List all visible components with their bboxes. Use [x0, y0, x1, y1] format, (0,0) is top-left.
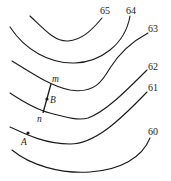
point-label-B: B: [50, 95, 56, 105]
contour-label-63: 63: [148, 23, 158, 34]
contour-line-65: [30, 16, 102, 41]
contour-line-64: [10, 16, 130, 63]
contour-label-65: 65: [100, 5, 110, 16]
contour-line-63: [12, 33, 148, 91]
contour-map: 656463626160 mBnA: [0, 0, 171, 181]
point-B-dot: [45, 97, 48, 100]
contour-label-62: 62: [148, 61, 158, 72]
contour-lines: [10, 16, 150, 172]
point-label-A: A: [20, 137, 27, 147]
point-A-dot: [26, 131, 29, 134]
contour-line-61: [10, 92, 147, 144]
point-label-m: m: [52, 74, 59, 84]
contour-label-60: 60: [148, 126, 158, 137]
contour-label-64: 64: [126, 5, 136, 16]
contour-line-60: [12, 138, 150, 172]
contour-label-61: 61: [148, 82, 158, 93]
point-label-n: n: [37, 114, 42, 124]
